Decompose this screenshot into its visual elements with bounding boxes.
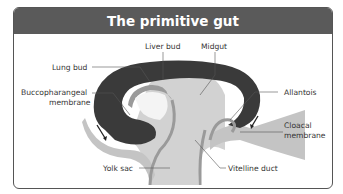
label-midgut: Midgut <box>201 42 227 51</box>
label-cloacal-1: Cloacal <box>284 121 312 130</box>
label-lung-bud: Lung bud <box>52 63 87 72</box>
label-cloacal-2: membrane <box>284 131 326 140</box>
label-allantois: Allantois <box>284 88 317 97</box>
primitive-gut-illustration <box>0 0 343 194</box>
label-liver-bud: Liver bud <box>145 42 181 51</box>
label-vitelline-duct: Vitelline duct <box>228 164 278 173</box>
label-buccopharangeal-1: Buccopharangeal <box>21 88 87 97</box>
label-buccopharangeal-2: membrane <box>49 98 91 107</box>
label-yolk-sac: Yolk sac <box>103 164 133 173</box>
